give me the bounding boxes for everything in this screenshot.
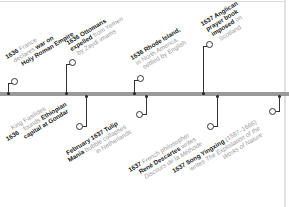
event-marker-icon bbox=[136, 111, 143, 118]
event-marker-icon bbox=[11, 78, 18, 85]
event-label: 1636 Ottomans expelled from Yemen by Zay… bbox=[65, 9, 128, 59]
event-label: February 1637 Tulip Mania bubble collaps… bbox=[63, 116, 133, 170]
connector bbox=[134, 80, 135, 93]
connector bbox=[86, 96, 87, 126]
connector bbox=[279, 96, 280, 111]
event-marker-icon bbox=[76, 123, 83, 130]
event-label: 1637 Anglican prayer book imposed on Sco… bbox=[199, 0, 250, 46]
event-marker-icon bbox=[269, 108, 276, 115]
connector bbox=[8, 83, 9, 93]
event-marker-icon bbox=[69, 59, 76, 66]
connector bbox=[203, 46, 204, 93]
connector bbox=[66, 64, 67, 93]
connector bbox=[217, 96, 218, 126]
connector bbox=[146, 96, 147, 114]
top-border bbox=[0, 1, 285, 2]
event-label: 1636 Rhode Island, in North America, set… bbox=[129, 26, 189, 74]
event-label: King Fasilides 1636founds Ethiopian capi… bbox=[1, 94, 72, 148]
event-marker-icon bbox=[207, 123, 214, 130]
event-label: 1636 France declares war on Holy Roman E… bbox=[4, 18, 75, 72]
event-marker-icon bbox=[137, 75, 144, 82]
right-border bbox=[284, 0, 286, 207]
